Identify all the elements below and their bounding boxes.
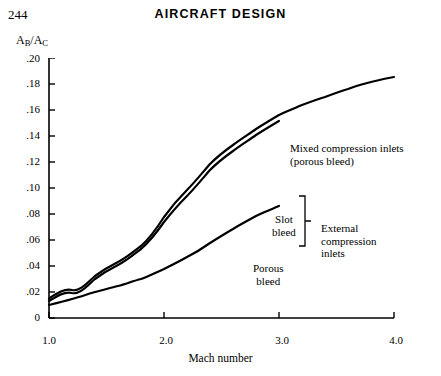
x-tick-label: 2.0: [151, 334, 181, 346]
figure-page: 244 AIRCRAFT DESIGN AB/AC .20 .18 .16 .1…: [0, 0, 441, 376]
y-tick-label: .08: [14, 207, 40, 219]
annotation-porous-line2: bleed: [253, 275, 284, 288]
y-axis-label: AB/AC: [16, 33, 48, 48]
y-tick-label: .02: [14, 285, 40, 297]
page-header: AIRCRAFT DESIGN: [0, 7, 441, 21]
annotation-external-inlets: External compression inlets: [321, 222, 377, 260]
x-tick-label: 4.0: [381, 334, 411, 346]
y-tick-label: .14: [14, 129, 40, 141]
y-tick-label: .20: [14, 52, 40, 64]
annotation-porous-line1: Porous: [253, 262, 284, 275]
annotation-external-line3: inlets: [321, 247, 377, 260]
annotation-slot-line2: bleed: [272, 226, 296, 239]
x-tick-label: 3.0: [267, 334, 297, 346]
series-line-slot-bleed: [49, 121, 279, 301]
y-tick-marks: [49, 58, 55, 318]
x-tick-marks: [49, 312, 394, 318]
annotation-mixed-compression: Mixed compression inlets (porous bleed): [290, 142, 404, 167]
annotation-slot-bleed: Slot bleed: [272, 213, 296, 238]
y-axis-label-sub-c: C: [42, 38, 48, 48]
external-inlets-bracket: [299, 196, 311, 246]
y-tick-label: .12: [14, 155, 40, 167]
annotation-porous-bleed: Porous bleed: [253, 262, 284, 287]
annotation-mixed-line2: (porous bleed): [290, 155, 404, 168]
y-tick-label: .18: [14, 77, 40, 89]
y-tick-label: .04: [14, 259, 40, 271]
x-axis-label: Mach number: [0, 352, 441, 364]
y-tick-label: .06: [14, 233, 40, 245]
annotation-mixed-line1: Mixed compression inlets: [290, 142, 404, 155]
y-tick-label: 0: [14, 311, 40, 323]
annotation-external-line1: External: [321, 222, 377, 235]
plot-area: [47, 58, 395, 322]
series-line-mixed-compression: [49, 77, 394, 299]
annotation-external-line2: compression: [321, 235, 377, 248]
y-axis-label-slash: /A: [30, 33, 42, 47]
annotation-slot-line1: Slot: [272, 213, 296, 226]
y-tick-label: .10: [14, 181, 40, 193]
x-tick-label: 1.0: [34, 334, 64, 346]
chart-svg: [47, 58, 395, 322]
y-tick-label: .16: [14, 103, 40, 115]
y-axis-label-a: A: [16, 33, 25, 47]
